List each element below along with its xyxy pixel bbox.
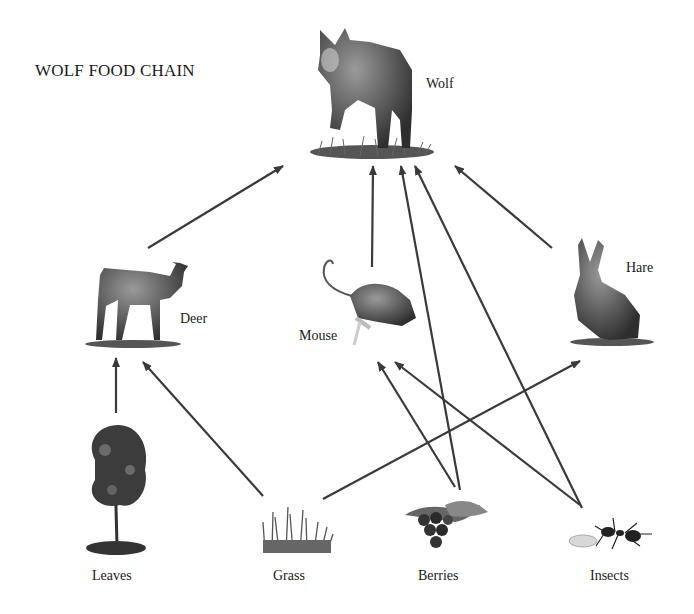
food-chain-arrows [0,0,694,614]
arrow-hare-to-wolf [455,166,552,248]
deer-icon [85,262,188,348]
mouse-label: Mouse [299,328,337,344]
arrow-insects-to-wolf [415,166,582,508]
arrow-grass-to-deer [143,362,263,496]
deer-label: Deer [180,311,207,327]
grass-icon [263,507,333,553]
hare-icon [570,238,654,346]
leaves-label: Leaves [92,568,132,584]
berries-icon [405,501,488,548]
wolf-label: Wolf [426,76,454,92]
hare-label: Hare [626,260,653,276]
arrow-mouse-to-wolf [372,166,373,267]
insects-label: Insects [590,568,629,584]
wolf-icon [310,28,434,159]
arrow-grass-to-hare [323,361,580,499]
berries-label: Berries [418,568,458,584]
arrow-berries-to-mouse [378,362,455,487]
arrow-deer-to-wolf [148,166,283,248]
insects-icon [569,518,652,549]
mouse-icon [324,261,416,345]
grass-label: Grass [273,568,305,584]
tree-icon [86,425,146,555]
